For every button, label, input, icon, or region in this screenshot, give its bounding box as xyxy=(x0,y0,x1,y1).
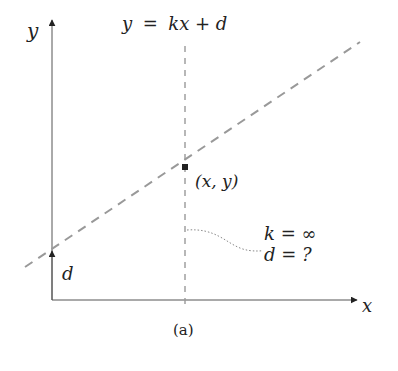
diagram-canvas: y x y = kx + d (x, y) d k = ∞ d = ? (a) xyxy=(0,0,398,371)
intercept-label: d xyxy=(62,263,74,284)
y-axis-label: y xyxy=(26,19,39,43)
equation-rhs: kx + d xyxy=(168,13,227,34)
annotation-connector xyxy=(187,230,262,251)
annotation-d: d = ? xyxy=(264,244,312,265)
x-axis-label: x xyxy=(362,295,372,316)
figure-caption: (a) xyxy=(173,321,194,339)
point-marker xyxy=(182,164,188,170)
annotation-k: k = ∞ xyxy=(264,223,316,244)
line-equation: y = kx + d xyxy=(121,13,227,34)
equation-eq: = xyxy=(143,13,158,34)
equation-lhs: y xyxy=(121,13,133,34)
point-label: (x, y) xyxy=(195,171,238,191)
